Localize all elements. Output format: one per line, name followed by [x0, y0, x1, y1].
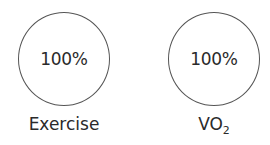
- exercise-circle: 100%: [18, 12, 110, 106]
- vo2-value: 100%: [190, 49, 237, 69]
- exercise-label-text: Exercise: [29, 114, 100, 134]
- vo2-label: VO2: [154, 114, 270, 137]
- vo2-circle: 100%: [168, 12, 260, 106]
- vo2-label-subscript: 2: [223, 124, 230, 137]
- exercise-node: 100% Exercise: [4, 0, 124, 145]
- exercise-value: 100%: [40, 49, 87, 69]
- vo2-node: 100% VO2: [154, 0, 270, 145]
- vo2-label-text: VO: [198, 114, 223, 134]
- exercise-label: Exercise: [4, 114, 124, 134]
